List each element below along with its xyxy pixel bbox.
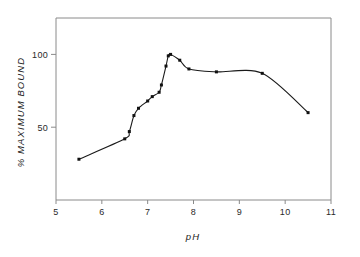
y-axis-label: % MAXIMUM BOUND (15, 57, 26, 167)
y-tick-label: 50 (37, 123, 48, 133)
x-tick-label: 10 (280, 207, 291, 217)
x-axis-label: pH (185, 231, 200, 242)
data-point (132, 114, 135, 117)
data-point (178, 59, 181, 62)
data-point (151, 95, 154, 98)
data-point (261, 72, 264, 75)
data-point (165, 65, 168, 68)
chart-figure: 567891011 50100 pH % MAXIMUM BOUND (0, 0, 360, 257)
chart-background (0, 0, 360, 257)
data-point (77, 158, 80, 161)
y-tick-label: 100 (32, 50, 48, 60)
x-tick-label: 7 (145, 207, 150, 217)
x-tick-label: 6 (99, 207, 104, 217)
x-tick-label: 11 (326, 207, 336, 217)
x-tick-label: 9 (237, 207, 242, 217)
x-tick-label: 8 (191, 207, 196, 217)
ph-binding-line-chart: 567891011 50100 pH % MAXIMUM BOUND (0, 0, 360, 257)
data-point (123, 137, 126, 140)
x-tick-label: 5 (53, 207, 58, 217)
data-point (187, 67, 190, 70)
data-point (137, 107, 140, 110)
data-point (158, 91, 161, 94)
data-point (307, 111, 310, 114)
data-point (128, 130, 131, 133)
data-point (146, 99, 149, 102)
data-point (215, 70, 218, 73)
data-point (160, 83, 163, 86)
data-point (169, 53, 172, 56)
